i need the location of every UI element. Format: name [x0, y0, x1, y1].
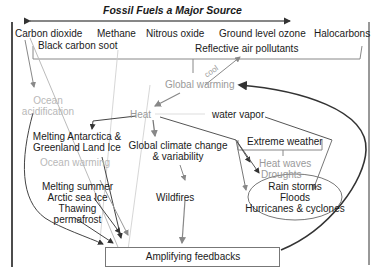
global-climate-line1: Global climate change	[128, 140, 228, 151]
rain-storms: Rain storms	[245, 181, 345, 192]
source-carbon-dioxide: Carbon dioxide	[15, 28, 82, 39]
extreme-weather: Extreme weather	[247, 136, 323, 147]
amplifying-feedbacks: Amplifying feedbacks	[105, 251, 281, 262]
heat: Heat	[130, 109, 151, 120]
source-ground-ozone: Ground level ozone	[219, 28, 306, 39]
source-halocarbons: Halocarbons	[314, 28, 370, 39]
floods: Floods	[245, 192, 345, 203]
global-climate-line2: & variability	[128, 151, 228, 162]
melting-ant-line1: Melting Antarctica &	[30, 131, 124, 142]
ocean-acidification: Ocean acidification	[20, 95, 76, 117]
thawing-line2: permafrost	[40, 214, 115, 225]
melting-arctic-line1: Melting summer	[40, 181, 115, 192]
melting-antarctica: Melting Antarctica & Greenland Land Ice	[30, 131, 124, 153]
ocean-acid-line2: acidification	[20, 106, 76, 117]
melting-arctic-line2: Arctic sea Ice	[40, 192, 115, 203]
source-nitrous-oxide: Nitrous oxide	[146, 28, 204, 39]
melting-arctic: Melting summer Arctic sea Ice Thawing pe…	[40, 181, 115, 225]
climate-diagram: Fossil Fuels a Major Source Carbon dioxi…	[0, 0, 377, 276]
source-black-carbon: Black carbon soot	[38, 40, 118, 51]
wildfires: Wildfires	[156, 192, 194, 203]
hurricanes: Hurricanes & cyclones	[245, 203, 345, 214]
water-vapor: water vapor	[212, 109, 264, 120]
melting-ant-line2: Greenland Land Ice	[30, 142, 124, 153]
global-warming: Global warming	[165, 79, 234, 90]
source-reflective: Reflective air pollutants	[195, 43, 298, 54]
extreme-events: Rain storms Floods Hurricanes & cyclones	[245, 181, 345, 214]
ocean-warming: Ocean warming	[40, 157, 110, 168]
heat-waves: Heat waves	[259, 158, 311, 169]
thawing-line1: Thawing	[40, 203, 115, 214]
ocean-acid-line1: Ocean	[20, 95, 76, 106]
droughts: Droughts	[261, 169, 302, 180]
global-climate-change: Global climate change & variability	[128, 140, 228, 162]
title: Fossil Fuels a Major Source	[103, 5, 242, 16]
source-methane: Methane	[97, 28, 136, 39]
